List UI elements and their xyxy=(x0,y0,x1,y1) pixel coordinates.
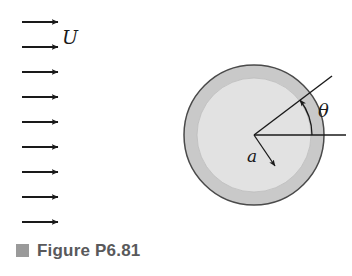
figure-p6-81: U θ a Figure P6.81 xyxy=(0,0,352,276)
figure-caption: Figure P6.81 xyxy=(16,242,141,259)
freestream-velocity-label: U xyxy=(62,26,79,48)
freestream-arrow-group xyxy=(22,22,58,222)
caption-bullet-icon xyxy=(16,244,29,257)
caption-label: Figure P6.81 xyxy=(37,242,141,259)
radius-label: a xyxy=(247,146,257,166)
angle-theta-label: θ xyxy=(318,100,329,121)
flow-past-cylinder-diagram: U θ a xyxy=(0,0,352,276)
